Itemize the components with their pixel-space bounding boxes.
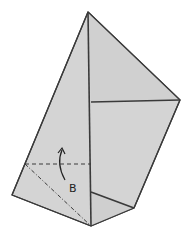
- origami-diagram: B: [0, 0, 193, 237]
- step-label: B: [69, 182, 77, 195]
